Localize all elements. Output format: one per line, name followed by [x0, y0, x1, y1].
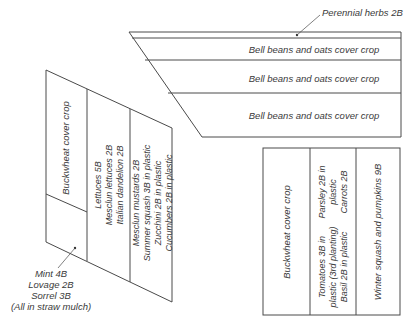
garden-layout-diagram: Perennial herbs 2B Bell beans and oats c…	[0, 0, 412, 335]
top-row-4-label: Bell beans and oats cover crop	[249, 110, 379, 121]
left-bed-block: Buckwheat cover crop Lettuces 5B Mesclun…	[11, 70, 174, 312]
left-col-1-label: Buckwheat cover crop	[60, 101, 71, 194]
herb-callout-line-4: (All in straw mulch)	[11, 301, 91, 312]
herb-callout-line-2: Lovage 2B	[28, 279, 74, 290]
left-col-2-line-1: Lettuces 5B	[93, 161, 103, 209]
left-col-3-line-3: Zucchini 2B in plastic	[153, 160, 163, 246]
herb-callout-line-1: Mint 4B	[35, 268, 68, 279]
right-col-2-top-line-2: plastic	[328, 179, 338, 206]
top-row-3-label: Bell beans and oats cover crop	[249, 73, 379, 84]
left-col-2-line-2: Mesclun lettuces 2B	[104, 145, 114, 226]
right-col-1-label: Buckwheat cover crop	[281, 185, 292, 278]
top-row-2-label: Bell beans and oats cover crop	[249, 44, 379, 55]
left-col-2-line-3: Italian dandelion 2B	[115, 145, 125, 224]
left-col-3-line-1: Mesclun mustards 2B	[131, 160, 141, 247]
right-col-2-top-line-3: Carrots 2B	[339, 170, 349, 213]
top-bed-block: Perennial herbs 2B Bell beans and oats c…	[129, 7, 403, 137]
left-col-3-line-4: Cucumbers 2B in plastic	[164, 154, 174, 252]
right-col-2-top-line-1: Parsley 2B in	[317, 165, 327, 218]
left-col-3-line-2: Summer squash 3B in plastic	[142, 144, 152, 261]
herb-callout-line-3: Sorrel 3B	[31, 290, 71, 301]
right-col-2-bottom-line-2: plastic (3rd planting)	[328, 226, 338, 308]
perennial-herbs-callout: Perennial herbs 2B	[322, 7, 403, 18]
right-bed-block: Buckwheat cover crop Parsley 2B in plast…	[263, 148, 400, 315]
right-col-2-bottom-line-1: Tomatoes 3B in	[317, 236, 327, 298]
right-col-3-label: Winter squash and pumpkins 9B	[372, 163, 383, 300]
right-col-2-bottom-line-3: Basil 2B in plastic	[339, 231, 349, 302]
